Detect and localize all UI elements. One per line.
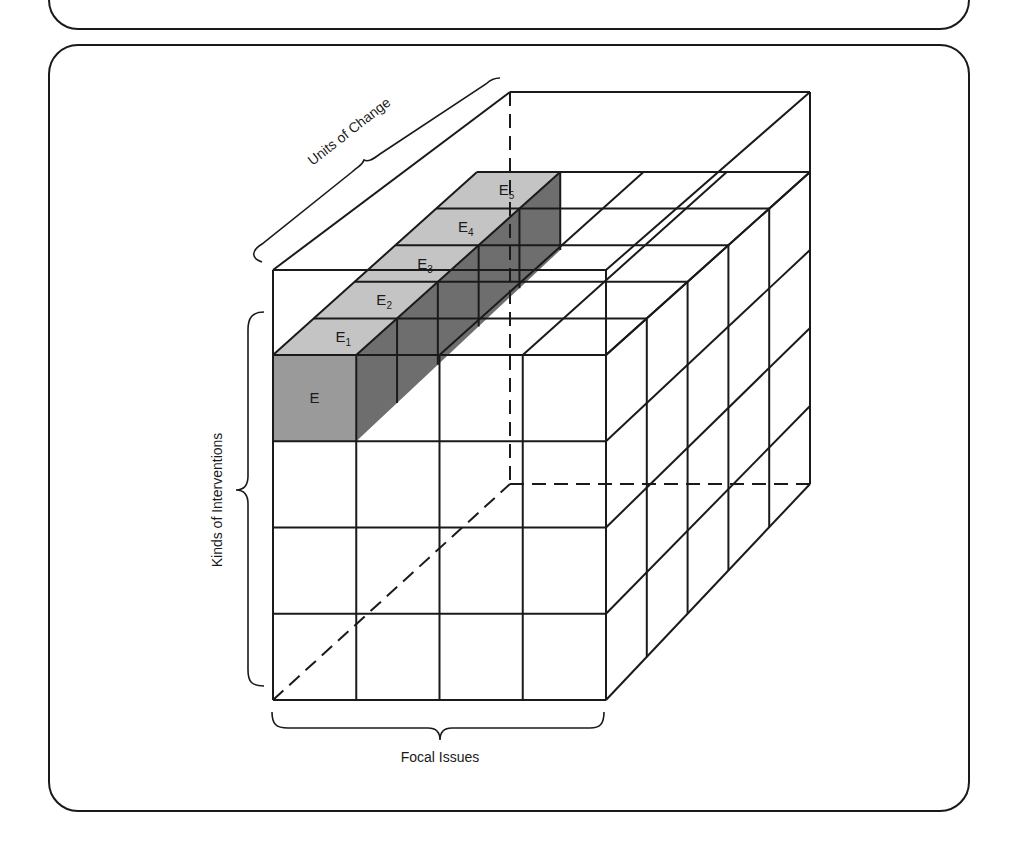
kinds-of-interventions-brace xyxy=(236,312,264,686)
units-of-change-label: Units of Change xyxy=(304,94,393,169)
focal-issues-brace xyxy=(272,712,604,740)
focal-issues-label: Focal Issues xyxy=(401,749,480,765)
cell-label-e: E xyxy=(310,389,320,406)
kinds-of-interventions-label: Kinds of Interventions xyxy=(209,433,225,568)
cube-diagram: EE1E2E3E4E5 Units of Change Kinds of Int… xyxy=(0,0,1019,868)
